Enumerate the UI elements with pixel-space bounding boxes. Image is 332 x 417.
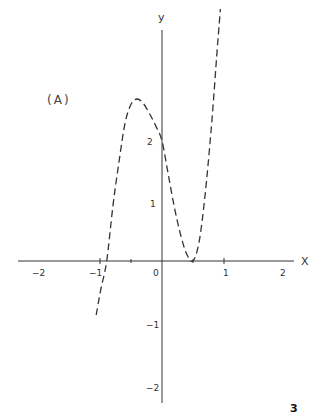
panel-label: (A) <box>47 94 71 106</box>
y-tick-label-2: 2 <box>147 138 153 147</box>
y-tick-label-neg2: −2 <box>146 384 159 393</box>
function-plot <box>0 0 332 417</box>
x-tick-label-2: 2 <box>280 269 286 278</box>
y-axis-label: y <box>158 12 165 23</box>
x-tick-label-neg1: −1 <box>89 269 102 278</box>
x-tick-label-1: 1 <box>223 269 229 278</box>
y-tick-label-1: 1 <box>150 200 156 209</box>
y-tick-label-neg1: −1 <box>146 321 159 330</box>
x-tick-label-neg2: −2 <box>32 269 45 278</box>
x-axis-label: X <box>301 256 309 267</box>
x-tick-label-0: 0 <box>153 269 159 278</box>
page-number: 3 <box>290 403 298 414</box>
